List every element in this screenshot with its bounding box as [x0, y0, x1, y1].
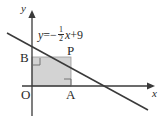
y-axis-label: y — [21, 3, 26, 14]
point-label-a: A — [66, 88, 75, 101]
equation-fraction-one-half: 1 2 — [58, 26, 64, 44]
equation-constant: 9 — [77, 29, 83, 41]
coordinate-geometry-figure: y = − 1 2 x + 9 y x O A P B — [0, 0, 163, 130]
point-label-origin: O — [21, 88, 30, 101]
line-equation-label: y = − 1 2 x + 9 — [38, 26, 83, 44]
figure-canvas — [0, 0, 163, 130]
equation-plus: + — [70, 29, 77, 41]
y-axis-arrowhead — [28, 10, 35, 18]
equation-equals: = — [43, 29, 50, 41]
point-label-p: P — [67, 44, 74, 57]
equation-minus: − — [50, 29, 57, 41]
fraction-denominator: 2 — [58, 34, 64, 43]
x-axis-label: x — [152, 88, 157, 99]
point-label-b: B — [20, 51, 29, 64]
shaded-rectangle-oapb — [32, 57, 71, 86]
fraction-numerator: 1 — [58, 26, 64, 34]
